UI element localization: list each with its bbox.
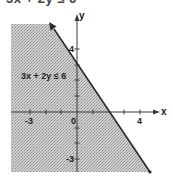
x-axis-label: x: [161, 106, 167, 117]
line-endpoint-icon: [148, 170, 151, 173]
x-tick-label: -3: [25, 116, 33, 126]
inequality-graph: y x -3 0 4 4 -3 3x + 2y ≤ 6: [0, 0, 173, 184]
x-tick-label: 0: [71, 116, 76, 126]
x-tick-label: 4: [137, 116, 142, 126]
y-tick-label: -3: [66, 154, 74, 164]
inequality-annotation: 3x + 2y ≤ 6: [21, 71, 66, 81]
y-tick-label: 4: [69, 44, 74, 54]
shaded-solution-region: [11, 24, 150, 172]
y-axis-label: y: [79, 10, 85, 21]
x-axis-arrow-icon: [153, 110, 160, 115]
